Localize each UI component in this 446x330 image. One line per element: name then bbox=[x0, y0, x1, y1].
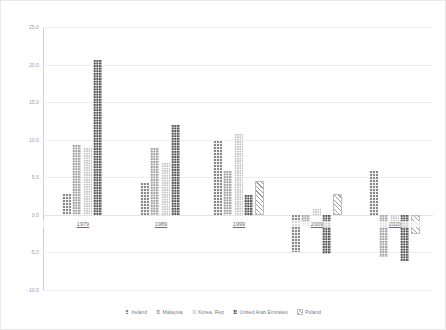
legend-item-uae[interactable]: United Arab Emirates bbox=[233, 309, 288, 315]
bar-uae-1979 bbox=[93, 60, 102, 215]
legend-swatch-uae-icon bbox=[233, 310, 237, 314]
legend-item-ireland[interactable]: Ireland bbox=[125, 309, 147, 315]
gridline bbox=[43, 27, 433, 28]
bar-ireland-1979 bbox=[62, 194, 71, 215]
y-axis-tick-label: 0.0 bbox=[9, 212, 39, 218]
y-axis-tick-label: 15.0 bbox=[9, 99, 39, 105]
bar-malaysia-1979 bbox=[72, 145, 81, 215]
y-axis-tick-label: 10.0 bbox=[9, 137, 39, 143]
legend-swatch-malaysia-icon bbox=[156, 310, 160, 314]
bar-ireland-2020 bbox=[369, 171, 378, 215]
bar-uae-1989 bbox=[171, 125, 180, 215]
bar-poland-1999 bbox=[255, 181, 264, 215]
x-axis-label-2009: 2009 bbox=[277, 221, 357, 227]
y-axis-tick-label: -10.0 bbox=[9, 287, 39, 293]
bar-ireland-1989 bbox=[140, 183, 149, 215]
bar-korea-2009 bbox=[312, 209, 321, 215]
legend-label-korea: Korea, Rep bbox=[198, 309, 224, 315]
legend-item-poland[interactable]: Poland bbox=[297, 309, 321, 315]
bar-korea-1979 bbox=[83, 148, 92, 215]
y-axis-tick-label: 5.0 bbox=[9, 174, 39, 180]
legend-label-poland: Poland bbox=[305, 309, 321, 315]
bar-malaysia-1999 bbox=[223, 171, 232, 215]
x-axis-label-2020: 2020 bbox=[355, 221, 435, 227]
gridline bbox=[43, 215, 433, 216]
bar-korea-1989 bbox=[161, 163, 170, 215]
bar-ireland-1999 bbox=[213, 141, 222, 215]
legend-swatch-ireland-icon bbox=[125, 310, 129, 314]
legend-swatch-poland-icon bbox=[297, 309, 303, 315]
bar-korea-1999 bbox=[234, 134, 243, 214]
gridline bbox=[43, 290, 433, 291]
legend-item-korea[interactable]: Korea, Rep bbox=[192, 309, 224, 315]
x-axis-label-1989: 1989 bbox=[121, 221, 201, 227]
bar-chart: 25.020.015.010.05.00.0-5.0-10.0197919891… bbox=[0, 0, 446, 330]
bar-malaysia-1989 bbox=[150, 148, 159, 215]
chart-legend: IrelandMalaysiaKorea, RepUnited Arab Emi… bbox=[1, 309, 445, 315]
x-axis-label-1979: 1979 bbox=[43, 221, 123, 227]
legend-label-uae: United Arab Emirates bbox=[239, 309, 287, 315]
legend-label-ireland: Ireland bbox=[131, 309, 147, 315]
plot-area: 25.020.015.010.05.00.0-5.0-10.0197919891… bbox=[43, 27, 433, 290]
y-axis-tick-label: -5.0 bbox=[9, 249, 39, 255]
x-axis-label-1999: 1999 bbox=[199, 221, 279, 227]
bar-poland-2009 bbox=[333, 194, 342, 215]
y-axis-tick-label: 25.0 bbox=[9, 24, 39, 30]
bar-uae-1999 bbox=[244, 195, 253, 215]
y-axis-tick-label: 20.0 bbox=[9, 62, 39, 68]
gridline bbox=[43, 252, 433, 253]
legend-item-malaysia[interactable]: Malaysia bbox=[156, 309, 183, 315]
legend-label-malaysia: Malaysia bbox=[163, 309, 183, 315]
legend-swatch-korea-icon bbox=[192, 310, 196, 314]
